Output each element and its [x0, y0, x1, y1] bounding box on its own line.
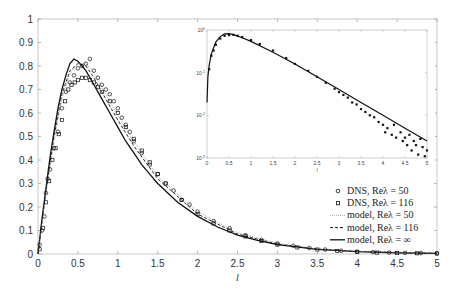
inset-x-tick-label: 0: [206, 160, 209, 166]
x-tick-label: 2.5: [231, 258, 245, 269]
square-marker-icon: [336, 202, 339, 205]
legend-entry: model, Reλ = 50: [330, 209, 414, 220]
legend-entry: DNS, Reλ = 50: [336, 185, 408, 196]
y-tick-label: 0.3: [19, 178, 33, 189]
x-tick-label: 3.5: [310, 258, 324, 269]
legend-label: model, Reλ = 116: [347, 222, 418, 233]
x-tick-label: 4: [354, 258, 360, 269]
inset-x-tick-label: 5: [426, 160, 429, 166]
inset-x-tick-label: 2.5: [314, 160, 321, 166]
y-tick-label: 0.7: [19, 84, 33, 95]
chart-figure: 00.511.522.533.544.5500.10.20.30.40.50.6…: [0, 0, 456, 294]
inset-log-plot: 00.511.522.533.544.5510-310-210-1100l: [196, 26, 435, 180]
legend-label: model, Reλ = ∞: [347, 234, 411, 245]
y-tick-label: 0.8: [19, 61, 33, 72]
legend-entry: model, Reλ = 116: [330, 222, 418, 233]
x-tick-label: 5: [434, 258, 440, 269]
legend-entry: model, Reλ = ∞: [330, 234, 411, 245]
x-tick-label: 0: [35, 258, 41, 269]
x-tick-label: 3: [275, 258, 281, 269]
inset-x-tick-label: 1: [250, 160, 253, 166]
legend-label: DNS, Reλ = 116: [347, 197, 413, 208]
y-tick-label: 0: [27, 249, 33, 260]
inset-x-tick-label: 3: [338, 160, 341, 166]
y-tick-label: 0.5: [19, 131, 33, 142]
legend-entry: DNS, Reλ = 116: [336, 197, 413, 208]
x-tick-label: 0.5: [71, 258, 85, 269]
inset-x-tick-label: 1.5: [270, 160, 277, 166]
x-tick-label: 1.5: [151, 258, 165, 269]
x-axis-label: l: [236, 272, 239, 283]
x-tick-label: 1: [115, 258, 121, 269]
x-tick-label: 4.5: [390, 258, 404, 269]
y-tick-label: 0.4: [19, 155, 33, 166]
legend-label: DNS, Reλ = 50: [347, 185, 409, 196]
y-tick-label: 0.6: [19, 108, 33, 119]
circle-marker-icon: [336, 189, 340, 193]
y-tick-label: 1: [27, 14, 33, 25]
inset-x-tick-label: 2: [294, 160, 297, 166]
x-tick-label: 2: [195, 258, 201, 269]
legend: DNS, Reλ = 50DNS, Reλ = 116model, Reλ = …: [330, 185, 418, 245]
y-tick-label: 0.9: [19, 37, 33, 48]
y-tick-label: 0.1: [19, 225, 33, 236]
inset-x-tick-label: 4.5: [402, 160, 409, 166]
inset-x-tick-label: 0.5: [226, 160, 233, 166]
inset-x-tick-label: 3.5: [358, 160, 365, 166]
inset-x-tick-label: 4: [382, 160, 385, 166]
legend-label: model, Reλ = 50: [347, 209, 414, 220]
y-tick-label: 0.2: [19, 202, 33, 213]
